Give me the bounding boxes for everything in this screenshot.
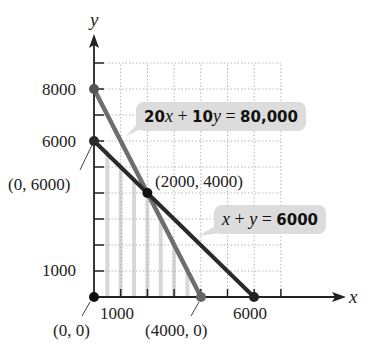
x-tick-label-1000: 1000 (100, 305, 134, 322)
point-label-0-6000: (0, 6000) (8, 176, 70, 193)
x-axis-label: x (349, 287, 357, 306)
y-tick-label-8000: 8000 (42, 81, 76, 98)
point-label-0-0: (0, 0) (53, 322, 90, 339)
eq1-var2: y (213, 106, 221, 126)
eq2-equals: = (257, 209, 276, 229)
eq2-var2: y (249, 209, 257, 229)
point-6000-0 (249, 292, 259, 302)
point-label-4000-0: (4000, 0) (145, 322, 207, 339)
equation-label-20x-10y-80000: 20x + 10y = 80,000 (136, 102, 306, 131)
eq1-var1: x (165, 106, 173, 126)
eq2-var1: x (222, 209, 230, 229)
y-axis-label: y (90, 10, 98, 29)
equation-label-x-y-6000: x + y = 6000 (214, 205, 326, 234)
point-0-0 (89, 292, 99, 302)
eq2-plus: + (230, 209, 249, 229)
eq1-rhs: 80,000 (240, 108, 298, 126)
eq1-coef1: 20 (144, 108, 165, 126)
point-0-6000 (89, 136, 99, 146)
y-tick-label-6000: 6000 (42, 133, 76, 150)
y-tick-label-1000: 1000 (42, 262, 76, 279)
leader-lines (80, 145, 199, 316)
point-2000-4000 (142, 188, 152, 198)
point-4000-0 (196, 292, 206, 302)
point-label-2000-4000: (2000, 4000) (155, 173, 243, 190)
eq1-coef2: 10 (192, 108, 213, 126)
eq1-equals: = (221, 106, 240, 126)
x-tick-label-6000: 6000 (233, 305, 267, 322)
point-0-8000 (89, 84, 99, 94)
eq2-rhs: 6000 (276, 211, 318, 229)
eq1-plus: + (173, 106, 192, 126)
